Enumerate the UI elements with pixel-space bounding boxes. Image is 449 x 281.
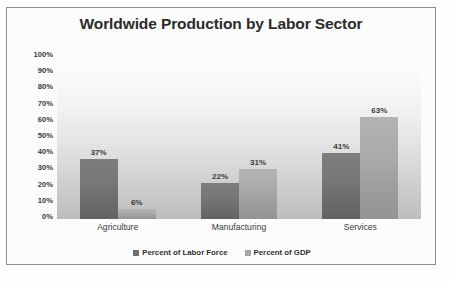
y-axis-tick: 90%	[17, 67, 53, 75]
bar-value-label: 31%	[250, 158, 266, 167]
category-label: Manufacturing	[178, 222, 299, 232]
x-axis-categories: AgricultureManufacturingServices	[57, 222, 421, 232]
chart-screenshot: Worldwide Production by Labor Sector 100…	[0, 0, 449, 281]
y-axis-tick: 10%	[17, 197, 53, 205]
bar-groups: 37%6%22%31%41%63%	[57, 57, 421, 219]
category-label: Agriculture	[57, 222, 178, 232]
bar-slot: 41%	[322, 57, 360, 219]
bar[interactable]: 6%	[118, 209, 156, 219]
bar[interactable]: 41%	[322, 153, 360, 219]
bar[interactable]: 31%	[239, 169, 277, 219]
bar[interactable]: 22%	[201, 183, 239, 219]
y-axis: 100%90%80%70%60%50%40%30%20%10%0%	[17, 55, 53, 219]
y-axis-tick: 40%	[17, 148, 53, 156]
chart-legend: Percent of Labor ForcePercent of GDP	[7, 248, 437, 257]
plot-area: 37%6%22%31%41%63%	[57, 57, 421, 219]
bar-value-label: 41%	[333, 142, 349, 151]
y-axis-tick: 50%	[17, 132, 53, 140]
y-axis-tick: 100%	[17, 51, 53, 59]
bar-group: 37%6%	[57, 57, 178, 219]
bar-slot: 6%	[118, 57, 156, 219]
legend-label: Percent of GDP	[254, 248, 311, 257]
bar-value-label: 22%	[212, 172, 228, 181]
bar-slot: 37%	[80, 57, 118, 219]
legend-swatch-icon	[133, 250, 139, 256]
bar-value-label: 6%	[131, 198, 143, 207]
bar-value-label: 63%	[371, 106, 387, 115]
bar-group: 41%63%	[300, 57, 421, 219]
bar-slot: 31%	[239, 57, 277, 219]
bar-value-label: 37%	[91, 148, 107, 157]
category-label: Services	[300, 222, 421, 232]
y-axis-tick: 20%	[17, 181, 53, 189]
bar-group: 22%31%	[178, 57, 299, 219]
y-axis-tick: 30%	[17, 164, 53, 172]
y-axis-tick: 60%	[17, 116, 53, 124]
legend-swatch-icon	[245, 250, 251, 256]
y-axis-tick: 80%	[17, 83, 53, 91]
bar[interactable]: 63%	[360, 117, 398, 219]
chart-frame: Worldwide Production by Labor Sector 100…	[6, 7, 436, 265]
chart-title: Worldwide Production by Labor Sector	[7, 15, 435, 33]
bar-slot: 63%	[360, 57, 398, 219]
bar-slot: 22%	[201, 57, 239, 219]
bar[interactable]: 37%	[80, 159, 118, 219]
y-axis-tick: 0%	[17, 213, 53, 221]
legend-entry[interactable]: Percent of Labor Force	[133, 248, 227, 257]
y-axis-tick: 70%	[17, 100, 53, 108]
legend-entry[interactable]: Percent of GDP	[245, 248, 311, 257]
legend-label: Percent of Labor Force	[142, 248, 227, 257]
